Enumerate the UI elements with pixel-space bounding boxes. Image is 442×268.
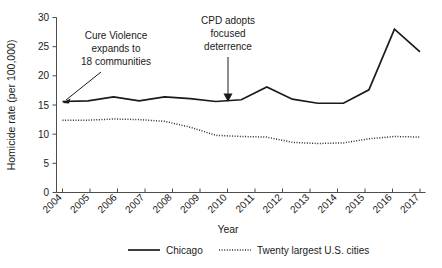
chart-legend: Chicago Twenty largest U.S. cities (128, 245, 369, 256)
x-tick-label-2016: 2016 (370, 191, 394, 215)
x-axis: 2004 2005 2006 2007 2008 2009 2010 2011 … (40, 189, 425, 236)
x-tick-label-2006: 2006 (95, 191, 119, 215)
x-tick-label-2007: 2007 (123, 191, 147, 215)
x-tick-label-2010: 2010 (205, 191, 229, 215)
y-axis: 30 25 20 15 10 5 0 Homicide rate (per 10… (5, 12, 57, 198)
legend-label-twenty-largest-cities[interactable]: Twenty largest U.S. cities (257, 245, 369, 256)
line-chart: 30 25 20 15 10 5 0 Homicide rate (per 10… (0, 0, 442, 268)
y-tick-label-15: 15 (38, 100, 50, 111)
annotation-cpd-line-3: deterrence (204, 41, 252, 52)
y-tick-label-20: 20 (38, 70, 50, 81)
x-tick-label-2014: 2014 (315, 191, 339, 215)
x-axis-title: Year (217, 223, 239, 235)
annotation-cpd-line-1: CPD adopts (201, 15, 255, 26)
x-tick-label-2011: 2011 (233, 191, 256, 214)
annotation-cure-arrow-line (66, 72, 101, 100)
annotation-cure-line-3: 18 communities (81, 56, 151, 67)
x-tick-label-2008: 2008 (150, 191, 174, 215)
x-tick-label-2013: 2013 (288, 191, 312, 215)
y-tick-label-5: 5 (43, 158, 49, 169)
x-tick-label-2015: 2015 (343, 191, 367, 215)
x-tick-label-2017: 2017 (398, 191, 422, 215)
annotation-cpd-line-2: focused (210, 28, 245, 39)
legend-label-chicago[interactable]: Chicago (166, 245, 203, 256)
x-tick-label-2012: 2012 (260, 191, 284, 215)
annotation-cure-violence: Cure Violence expands to 18 communities (63, 30, 152, 104)
y-tick-label-25: 25 (38, 41, 50, 52)
annotation-cure-line-2: expands to (92, 43, 141, 54)
y-axis-title: Homicide rate (per 100,000) (5, 40, 17, 171)
y-tick-label-10: 10 (38, 129, 50, 140)
y-tick-label-0: 0 (43, 187, 49, 198)
annotation-cure-line-1: Cure Violence (85, 30, 148, 41)
series-line-twenty-largest-cities (63, 119, 421, 144)
y-tick-label-30: 30 (38, 12, 50, 23)
chart-figure: 30 25 20 15 10 5 0 Homicide rate (per 10… (0, 0, 442, 268)
x-tick-label-2009: 2009 (178, 191, 202, 215)
annotation-cpd-deterrence: CPD adopts focused deterrence (201, 15, 255, 102)
x-tick-label-2005: 2005 (68, 191, 92, 215)
